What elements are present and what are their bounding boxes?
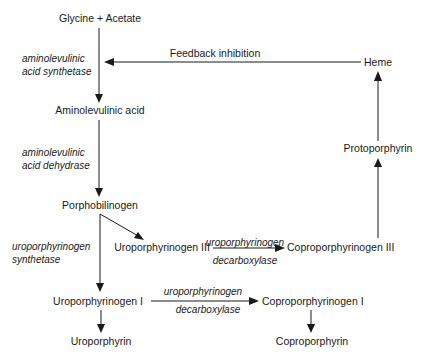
arrow-copro-iii-to-protoporphyrin bbox=[374, 158, 382, 238]
feedback-inhibition-label: Feedback inhibition bbox=[170, 47, 261, 59]
enzyme-ala-synthetase-line1: aminolevulinic bbox=[22, 53, 85, 64]
enzyme-uro-decarboxylase-iii-line1: uroporphyrinogen bbox=[206, 237, 285, 248]
enzyme-uro-decarboxylase-iii-line2: decarboxylase bbox=[213, 255, 278, 266]
node-uroporphyrinogen-iii: Uroporphyrinogen III bbox=[114, 241, 210, 253]
arrow-copro-i-to-coproporphyrin bbox=[307, 310, 315, 333]
arrow-feedback-inhibition bbox=[104, 58, 361, 66]
enzyme-uro-decarboxylase-i-line2: decarboxylase bbox=[176, 304, 241, 315]
node-porphobilinogen: Porphobilinogen bbox=[62, 199, 138, 211]
node-coproporphyrin: Coproporphyrin bbox=[276, 335, 349, 347]
enzyme-ala-synthetase-line2: acid synthetase bbox=[22, 66, 92, 77]
node-coproporphyrinogen-i: Coproporphyrinogen I bbox=[262, 295, 364, 307]
node-protoporphyrin: Protoporphyrin bbox=[344, 142, 413, 154]
enzyme-ala-dehydrase-line2: acid dehydrase bbox=[22, 160, 90, 171]
enzyme-ala-dehydrase-line1: aminolevulinic bbox=[22, 147, 85, 158]
enzyme-uro-synthetase-line1: uroporphyrinogen bbox=[12, 241, 91, 252]
node-glycine-acetate: Glycine + Acetate bbox=[59, 12, 141, 24]
node-coproporphyrinogen-iii: Coproporphyrinogen III bbox=[287, 241, 394, 253]
heme-pathway-diagram: Glycine + Acetate Aminolevulinic acid Po… bbox=[0, 0, 440, 359]
arrow-protoporphyrin-to-heme bbox=[374, 71, 382, 141]
arrow-uro-i-to-uroporphyrin bbox=[97, 310, 105, 333]
enzyme-uro-synthetase-line2: synthetase bbox=[12, 254, 61, 265]
arrow-glycine-to-ala bbox=[95, 28, 103, 103]
arrow-ala-to-porphobilinogen bbox=[95, 120, 103, 197]
enzyme-uro-decarboxylase-i-line1: uroporphyrinogen bbox=[164, 286, 243, 297]
arrow-porphobilinogen-to-uro-i bbox=[96, 214, 104, 292]
node-uroporphyrin: Uroporphyrin bbox=[71, 335, 132, 347]
node-heme: Heme bbox=[364, 56, 392, 68]
node-uroporphyrinogen-i: Uroporphyrinogen I bbox=[53, 295, 143, 307]
node-aminolevulinic-acid: Aminolevulinic acid bbox=[55, 104, 144, 116]
arrow-porphobilinogen-to-uro-iii bbox=[100, 214, 144, 240]
